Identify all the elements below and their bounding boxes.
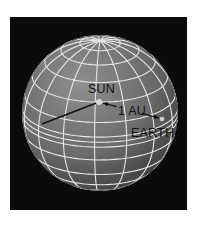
celestial-sphere-diagram: SUN 1 AU EARTH xyxy=(10,17,187,210)
celestial-sphere xyxy=(10,17,187,210)
earth-point xyxy=(160,117,165,122)
distance-label: 1 AU xyxy=(118,105,146,118)
earth-label: EARTH xyxy=(131,127,174,140)
sun-label: SUN xyxy=(88,83,115,96)
sun-point xyxy=(96,99,102,105)
